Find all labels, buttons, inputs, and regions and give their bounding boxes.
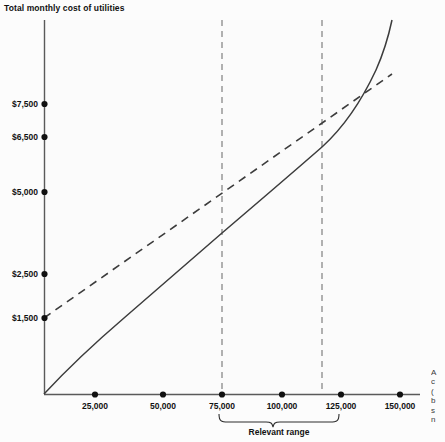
page-edge-text-fragment: A c ( b s n (431, 368, 445, 424)
x-axis-label-25000: 25,000 (67, 401, 123, 411)
edge-fragment-6: n (431, 415, 445, 424)
y-tick-dot-1500 (41, 315, 47, 321)
y-tick-dot-6500 (41, 134, 47, 140)
edge-fragment-3: ( (431, 387, 445, 396)
x-axis-label-150000: 150,000 (372, 401, 428, 411)
relevant-range-bracket (219, 414, 339, 427)
x-tick-dot-100000 (279, 391, 285, 397)
x-axis-label-75000: 75,000 (194, 401, 250, 411)
y-tick-dot-7500 (41, 101, 47, 107)
edge-fragment-2: c (431, 377, 445, 386)
relevant-range-label: Relevant range (219, 427, 339, 437)
edge-fragment-1: A (431, 368, 445, 377)
x-tick-dot-150000 (397, 391, 403, 397)
y-tick-dot-2500 (41, 271, 47, 277)
x-tick-dot-125000 (338, 391, 344, 397)
x-axis-label-100000: 100,000 (254, 401, 310, 411)
y-axis-label-1500: $1,500 (0, 313, 38, 323)
y-axis-label-5000: $5,000 (0, 187, 38, 197)
y-axis-label-2500: $2,500 (0, 269, 38, 279)
x-axis-label-125000: 125,000 (313, 401, 369, 411)
y-axis-label-6500: $6,500 (0, 132, 38, 142)
edge-fragment-4: b (431, 396, 445, 405)
x-tick-dot-50000 (160, 391, 166, 397)
x-axis-label-50000: 50,000 (135, 401, 191, 411)
edge-fragment-5: s (431, 406, 445, 415)
y-tick-dot-5000 (41, 189, 47, 195)
x-tick-dot-25000 (92, 391, 98, 397)
chart-plot-area (0, 0, 445, 442)
x-tick-dot-75000 (219, 391, 225, 397)
y-axis-label-7500: $7,500 (0, 99, 38, 109)
chart-figure: Total monthly cost of utilities (0, 0, 445, 442)
